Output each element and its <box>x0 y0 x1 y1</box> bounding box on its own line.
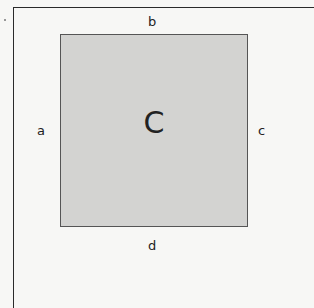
center-label: C <box>61 105 247 140</box>
side-label-bottom: d <box>148 238 156 253</box>
square-region: C <box>60 34 248 227</box>
side-label-top: b <box>148 14 156 29</box>
stray-dot <box>4 19 6 21</box>
side-label-right: c <box>258 123 265 138</box>
side-label-left: a <box>37 123 45 138</box>
